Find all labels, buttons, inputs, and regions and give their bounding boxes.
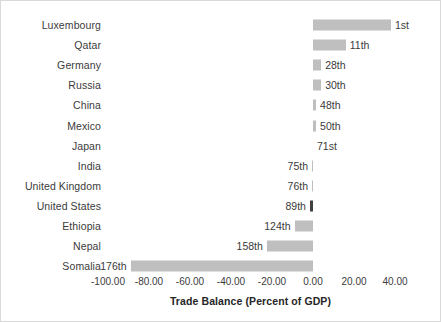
bar-value-label: 48th [320, 99, 340, 111]
category-label: China [1, 99, 101, 111]
bar-value-label: 124th [264, 220, 290, 232]
bar-row: Ethiopia124th [1, 216, 441, 236]
category-label: Russia [1, 79, 101, 91]
bar-value-label: 89th [286, 200, 306, 212]
category-label: India [1, 160, 101, 172]
bar-row: Mexico50th [1, 116, 441, 136]
bar-value-label: 75th [288, 160, 308, 172]
bar-row: Somalia176th [1, 256, 441, 276]
category-label: Luxembourg [1, 19, 101, 31]
plot-area: Luxembourg1stQatar11thGermany28thRussia3… [1, 1, 440, 321]
bar-value-label: 30th [325, 79, 345, 91]
x-axis-title-text: Trade Balance (Percent of GDP) [170, 295, 331, 307]
bar-value-label: 76th [288, 180, 308, 192]
bar-value-label: 158th [237, 240, 263, 252]
x-tick-label: 20.00 [341, 276, 366, 287]
category-label: United Kingdom [1, 180, 101, 192]
bar-row: Germany28th [1, 55, 441, 75]
category-label: Somalia [1, 260, 101, 272]
bar [131, 261, 313, 272]
x-tick-label: -80.00 [135, 276, 163, 287]
bar-row: Nepal158th [1, 236, 441, 256]
bar [295, 221, 313, 232]
bar-value-label: 176th [100, 260, 126, 272]
x-tick-label: 40.00 [382, 276, 407, 287]
bar [267, 241, 313, 252]
bar-row: Qatar11th [1, 35, 441, 55]
bar-row: United States89th [1, 196, 441, 216]
bar-row: Japan71st [1, 136, 441, 156]
bar [313, 100, 316, 111]
category-label: Nepal [1, 240, 101, 252]
x-axis-title: Trade Balance (Percent of GDP) [1, 295, 440, 307]
bar [313, 120, 316, 131]
bar-value-label: 11th [350, 39, 370, 51]
bar [310, 200, 313, 211]
category-label: Mexico [1, 120, 101, 132]
bar [312, 180, 313, 191]
bar-row: China48th [1, 95, 441, 115]
bar-row: India75th [1, 156, 441, 176]
category-label: Qatar [1, 39, 101, 51]
bar-value-label: 50th [320, 120, 340, 132]
bar [313, 80, 321, 91]
category-label: Ethiopia [1, 220, 101, 232]
bar [313, 60, 321, 71]
category-label: United States [1, 200, 101, 212]
category-label: Germany [1, 59, 101, 71]
x-tick-label: -100.00 [91, 276, 125, 287]
bar-row: Luxembourg1st [1, 15, 441, 35]
x-tick-label: -60.00 [176, 276, 204, 287]
bar-value-label: 1st [395, 19, 409, 31]
bar-value-label: 71st [317, 140, 337, 152]
bar [312, 160, 313, 171]
category-label: Japan [1, 140, 101, 152]
x-tick-label: -20.00 [258, 276, 286, 287]
bar-row: United Kingdom76th [1, 176, 441, 196]
bar-value-label: 28th [325, 59, 345, 71]
bar [313, 20, 391, 31]
x-tick-label: -40.00 [217, 276, 245, 287]
x-tick-label: 0.00 [303, 276, 322, 287]
x-axis-tick-labels: -100.00-80.00-60.00-40.00-20.000.0020.00… [1, 276, 441, 290]
trade-balance-bar-chart: Luxembourg1stQatar11thGermany28thRussia3… [0, 0, 441, 322]
bar [313, 40, 346, 51]
bar-row: Russia30th [1, 75, 441, 95]
